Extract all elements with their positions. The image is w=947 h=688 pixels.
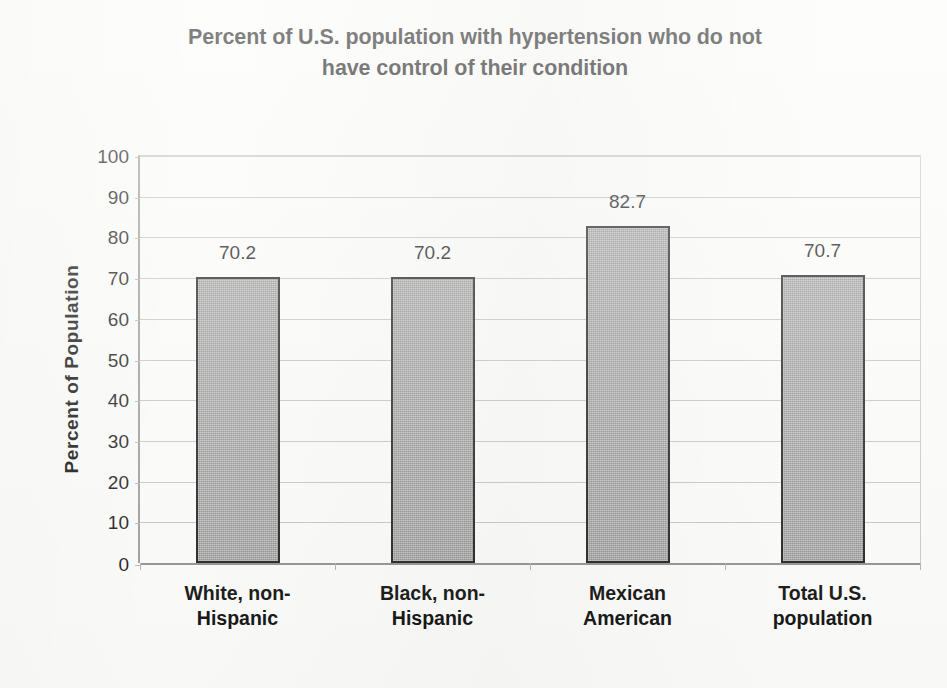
y-tick-label: 60	[108, 310, 129, 329]
y-tick-label: 0	[118, 555, 129, 574]
y-tick-label: 30	[108, 432, 129, 451]
y-tick-mark	[135, 279, 140, 280]
x-category-label: MexicanAmerican	[523, 581, 733, 632]
x-tick-mark	[335, 563, 336, 570]
y-tick-mark	[135, 198, 140, 199]
chart-title-line-1: Percent of U.S. population with hyperten…	[90, 22, 860, 53]
x-category-label-line: Mexican	[523, 581, 733, 606]
x-category-label: Total U.S.population	[718, 581, 928, 632]
x-tick-mark	[725, 563, 726, 570]
plot-area: 100908070605040302010070.2White, non-His…	[138, 155, 921, 563]
y-tick-mark	[135, 320, 140, 321]
bar-value-label: 70.2	[219, 243, 256, 262]
x-category-label-line: Hispanic	[328, 606, 538, 631]
bar	[781, 275, 865, 563]
y-tick-label: 20	[108, 473, 129, 492]
bar	[586, 226, 670, 563]
x-tick-mark	[530, 563, 531, 570]
bar-value-label: 82.7	[609, 192, 646, 211]
y-tick-mark	[135, 523, 140, 524]
gridline: 100	[140, 156, 920, 157]
x-category-label: White, non-Hispanic	[133, 581, 343, 632]
y-tick-label: 10	[108, 513, 129, 532]
x-category-label-line: Black, non-	[328, 581, 538, 606]
chart-title-line-2: have control of their condition	[90, 53, 860, 84]
y-tick-label: 70	[108, 269, 129, 288]
y-tick-mark	[135, 361, 140, 362]
bar	[391, 277, 475, 563]
gridline: 80	[140, 237, 920, 238]
y-tick-label: 100	[97, 147, 129, 166]
y-tick-label: 40	[108, 391, 129, 410]
x-category-label-line: Total U.S.	[718, 581, 928, 606]
y-tick-mark	[135, 442, 140, 443]
x-category-label-line: Hispanic	[133, 606, 343, 631]
y-tick-label: 50	[108, 351, 129, 370]
bar-value-label: 70.7	[804, 241, 841, 260]
y-axis-title: Percent of Population	[61, 219, 83, 519]
y-tick-mark	[135, 401, 140, 402]
bar-chart: Percent of U.S. population with hyperten…	[0, 0, 947, 688]
x-tick-mark	[140, 563, 141, 570]
y-tick-mark	[135, 238, 140, 239]
y-tick-label: 80	[108, 229, 129, 248]
x-category-label-line: population	[718, 606, 928, 631]
y-tick-mark	[135, 157, 140, 158]
y-tick-label: 90	[108, 188, 129, 207]
chart-title: Percent of U.S. population with hyperten…	[90, 22, 860, 84]
x-category-label-line: White, non-	[133, 581, 343, 606]
x-category-label-line: American	[523, 606, 733, 631]
bar-value-label: 70.2	[414, 243, 451, 262]
gridline: 90	[140, 197, 920, 198]
bar	[196, 277, 280, 563]
x-category-label: Black, non-Hispanic	[328, 581, 538, 632]
y-tick-mark	[135, 483, 140, 484]
x-tick-mark	[920, 563, 921, 570]
